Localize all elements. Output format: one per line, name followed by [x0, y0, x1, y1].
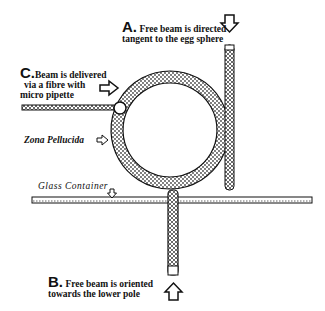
label-c-line3: micro pipette [20, 90, 74, 100]
label-c-letter: C. [20, 64, 35, 81]
label-b-letter: B. [48, 273, 63, 290]
beam-a-fibre [225, 45, 234, 190]
label-c: C.Beam is delivered via a fibre with mic… [20, 68, 107, 100]
label-b-line1: Free beam is oriented [65, 279, 153, 289]
beam-b-fibre [168, 190, 178, 275]
label-a-letter: A. [122, 18, 137, 35]
label-a-line1: Free beam is directed [139, 24, 226, 34]
zona-pellucida-ring [111, 71, 229, 189]
label-glass-container: Glass Container [38, 181, 108, 191]
label-a: A. Free beam is directed tangent to the … [122, 22, 226, 44]
label-c-line2: via a fibre with [24, 80, 85, 90]
label-zona-pellucida: Zona Pellucida [24, 135, 84, 145]
label-a-line2: tangent to the egg sphere [122, 34, 223, 44]
diagram-canvas [0, 0, 325, 311]
beam-c-fibre [22, 102, 126, 114]
zona-arrow-right-icon [97, 135, 108, 145]
label-b-line2: towards the lower pole [48, 289, 140, 299]
label-c-line1: Beam is delivered [35, 70, 107, 80]
label-b: B. Free beam is oriented towards the low… [48, 277, 153, 299]
arrow-up-icon [165, 283, 182, 300]
